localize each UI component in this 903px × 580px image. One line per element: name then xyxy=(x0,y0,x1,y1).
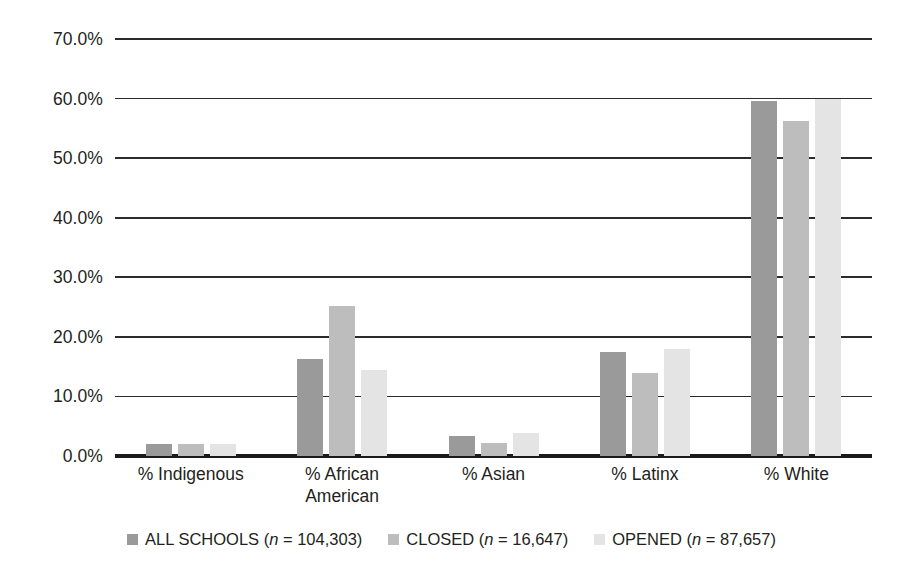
y-axis-tick-label: 0.0% xyxy=(63,446,103,467)
bar xyxy=(815,99,841,456)
chart-legend: ALL SCHOOLS (n = 104,303)CLOSED (n = 16,… xyxy=(0,530,903,549)
bar xyxy=(783,121,809,456)
bar xyxy=(146,444,172,457)
bar xyxy=(329,306,355,456)
legend-swatch-icon xyxy=(594,534,605,545)
bar xyxy=(513,433,539,456)
y-axis: 0.0%10.0%20.0%30.0%40.0%50.0%60.0%70.0% xyxy=(0,39,115,456)
bar xyxy=(449,436,475,456)
x-axis-tick-label: % White xyxy=(721,463,872,485)
y-axis-tick-label: 40.0% xyxy=(53,207,103,228)
bar xyxy=(481,443,507,456)
bar xyxy=(178,444,204,456)
legend-item: OPENED (n = 87,657) xyxy=(594,530,776,549)
y-axis-tick-label: 50.0% xyxy=(53,148,103,169)
y-axis-tick-label: 70.0% xyxy=(53,29,103,50)
legend-item-label: OPENED (n = 87,657) xyxy=(612,530,776,549)
bar xyxy=(297,359,323,456)
bar-chart: 0.0%10.0%20.0%30.0%40.0%50.0%60.0%70.0% … xyxy=(0,0,903,580)
bar xyxy=(210,444,236,456)
y-axis-tick-label: 10.0% xyxy=(53,386,103,407)
bar xyxy=(664,349,690,456)
legend-item: ALL SCHOOLS (n = 104,303) xyxy=(127,530,362,549)
y-axis-tick-label: 60.0% xyxy=(53,88,103,109)
bar xyxy=(632,373,658,456)
legend-swatch-icon xyxy=(388,534,399,545)
y-axis-tick-label: 30.0% xyxy=(53,267,103,288)
bar xyxy=(600,352,626,456)
legend-item: CLOSED (n = 16,647) xyxy=(388,530,568,549)
legend-swatch-icon xyxy=(127,534,138,545)
bar xyxy=(751,101,777,456)
bar xyxy=(361,370,387,456)
x-axis-category-labels: % Indigenous% African American% Asian% L… xyxy=(115,463,872,518)
gridline xyxy=(115,98,872,100)
legend-item-label: CLOSED (n = 16,647) xyxy=(406,530,568,549)
x-axis-tick-label: % African American xyxy=(266,463,417,507)
x-axis-tick-label: % Asian xyxy=(418,463,569,485)
x-axis-tick-label: % Latinx xyxy=(569,463,720,485)
legend-item-label: ALL SCHOOLS (n = 104,303) xyxy=(145,530,362,549)
x-axis-tick-label: % Indigenous xyxy=(115,463,266,485)
y-axis-tick-label: 20.0% xyxy=(53,326,103,347)
gridline xyxy=(115,38,872,40)
plot-area xyxy=(115,39,872,456)
